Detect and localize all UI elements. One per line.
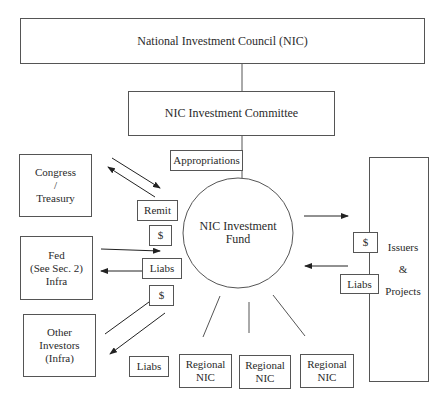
appropriations-label: Appropriations (173, 154, 240, 167)
regional-nic-box-1: RegionalNIC (179, 354, 232, 388)
other-investors-box: Other Investors (Infra) (23, 314, 96, 377)
dollar-other-box: $ (149, 285, 174, 306)
regional-nic-box-2: RegionalNIC (239, 355, 291, 389)
congress-box: Congress / Treasury (19, 154, 92, 217)
liabs-issuers-box: Liabs (340, 274, 379, 294)
dollar-issuers-box: $ (353, 232, 378, 253)
appropriations-box: Appropriations (170, 150, 243, 171)
remit-box: Remit (137, 200, 178, 221)
committee-label: NIC Investment Committee (165, 107, 298, 120)
council-box: National Investment Council (NIC) (20, 18, 425, 64)
issuers-label: Issuers & Projects (378, 236, 428, 302)
liabs-other-box: Liabs (129, 356, 169, 377)
fed-box: Fed (See Sec. 2) Infra (20, 236, 93, 300)
liabs-fed-box: Liabs (142, 258, 182, 279)
committee-box: NIC Investment Committee (128, 91, 335, 136)
fund-label: NIC Investment Fund (188, 220, 288, 246)
dollar-fed-box: $ (149, 225, 172, 246)
council-label: National Investment Council (NIC) (137, 35, 307, 48)
regional-nic-box-3: RegionalNIC (300, 354, 354, 388)
